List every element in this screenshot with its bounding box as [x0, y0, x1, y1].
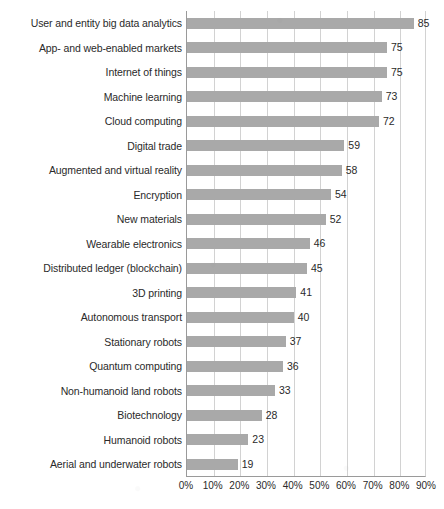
bar: [187, 459, 238, 470]
category-label: Cloud computing: [4, 109, 182, 134]
bar-value-label: 58: [342, 165, 358, 176]
bar-value-label: 85: [414, 18, 430, 29]
category-label: Wearable electronics: [4, 232, 182, 257]
bar-value-label: 75: [387, 42, 403, 53]
bar: [187, 434, 248, 445]
bar-row: New materials52: [0, 207, 444, 232]
x-tick-label: 60%: [336, 480, 356, 491]
bar-track: 23: [187, 428, 427, 453]
bar-track: 59: [187, 134, 427, 159]
bar-value-label: 33: [275, 385, 291, 396]
category-label: Digital trade: [4, 134, 182, 159]
bar-track: 73: [187, 85, 427, 110]
category-label: User and entity big data analytics: [4, 11, 182, 36]
bar-rows: User and entity big data analytics85App-…: [0, 11, 444, 477]
bar-chart: User and entity big data analytics85App-…: [0, 0, 444, 509]
bar-row: User and entity big data analytics85: [0, 11, 444, 36]
category-label: Internet of things: [4, 60, 182, 85]
bar: [187, 361, 283, 372]
bar-track: 28: [187, 403, 427, 428]
bar-value-label: 52: [326, 214, 342, 225]
bar: [187, 189, 331, 200]
bar-row: 3D printing41: [0, 281, 444, 306]
category-label: Encryption: [4, 183, 182, 208]
bar-track: 37: [187, 330, 427, 355]
category-label: App- and web-enabled markets: [4, 36, 182, 61]
bar-track: 72: [187, 109, 427, 134]
bar: [187, 165, 342, 176]
bar-track: 41: [187, 281, 427, 306]
bar-track: 75: [187, 60, 427, 85]
bar-row: Humanoid robots23: [0, 428, 444, 453]
x-tick-label: 70%: [363, 480, 383, 491]
bar-value-label: 23: [248, 434, 264, 445]
category-label: Aerial and underwater robots: [4, 452, 182, 477]
bar: [187, 67, 387, 78]
bar-value-label: 41: [296, 287, 312, 298]
bar-value-label: 46: [310, 238, 326, 249]
bar-row: Internet of things75: [0, 60, 444, 85]
bar-row: Non-humanoid land robots33: [0, 379, 444, 404]
bar-track: 54: [187, 183, 427, 208]
bar-row: Biotechnology28: [0, 403, 444, 428]
bar-row: App- and web-enabled markets75: [0, 36, 444, 61]
category-label: Stationary robots: [4, 330, 182, 355]
bar-value-label: 45: [307, 263, 323, 274]
bar: [187, 18, 414, 29]
bar-track: 52: [187, 207, 427, 232]
category-label: Non-humanoid land robots: [4, 379, 182, 404]
bar-value-label: 37: [286, 336, 302, 347]
bar-value-label: 59: [344, 140, 360, 151]
bar: [187, 214, 326, 225]
x-tick-label: 0%: [179, 480, 193, 491]
bar-track: 58: [187, 158, 427, 183]
bar-track: 46: [187, 232, 427, 257]
bar: [187, 116, 379, 127]
category-label: Biotechnology: [4, 403, 182, 428]
bar-value-label: 75: [387, 67, 403, 78]
bar: [187, 42, 387, 53]
x-tick-label: 10%: [203, 480, 223, 491]
bar-value-label: 72: [379, 116, 395, 127]
bar-value-label: 36: [283, 361, 299, 372]
bar: [187, 385, 275, 396]
bar-row: Cloud computing72: [0, 109, 444, 134]
x-tick-label: 80%: [389, 480, 409, 491]
bar-row: Augmented and virtual reality58: [0, 158, 444, 183]
bar-row: Wearable electronics46: [0, 232, 444, 257]
x-tick-label: 20%: [229, 480, 249, 491]
category-label: Machine learning: [4, 85, 182, 110]
bar: [187, 238, 310, 249]
category-label: Autonomous transport: [4, 305, 182, 330]
category-label: Distributed ledger (blockchain): [4, 256, 182, 281]
category-label: 3D printing: [4, 281, 182, 306]
category-label: Quantum computing: [4, 354, 182, 379]
bar-track: 36: [187, 354, 427, 379]
bar-row: Quantum computing36: [0, 354, 444, 379]
x-tick-label: 50%: [309, 480, 329, 491]
bar-row: Digital trade59: [0, 134, 444, 159]
bar: [187, 140, 344, 151]
bar-value-label: 54: [331, 189, 347, 200]
bar-track: 85: [187, 11, 427, 36]
bar-row: Aerial and underwater robots19: [0, 452, 444, 477]
bar: [187, 312, 294, 323]
bar-track: 33: [187, 379, 427, 404]
category-label: New materials: [4, 207, 182, 232]
bar-value-label: 40: [294, 312, 310, 323]
x-tick-label: 30%: [256, 480, 276, 491]
bar-value-label: 28: [262, 410, 278, 421]
bar-track: 40: [187, 305, 427, 330]
bar: [187, 410, 262, 421]
bar-row: Machine learning73: [0, 85, 444, 110]
category-label: Humanoid robots: [4, 428, 182, 453]
x-tick-label: 90%: [416, 480, 436, 491]
bar: [187, 263, 307, 274]
bar-track: 75: [187, 36, 427, 61]
bar: [187, 91, 382, 102]
bar-row: Stationary robots37: [0, 330, 444, 355]
bar-row: Autonomous transport40: [0, 305, 444, 330]
bar-track: 19: [187, 452, 427, 477]
bar-row: Encryption54: [0, 183, 444, 208]
category-label: Augmented and virtual reality: [4, 158, 182, 183]
